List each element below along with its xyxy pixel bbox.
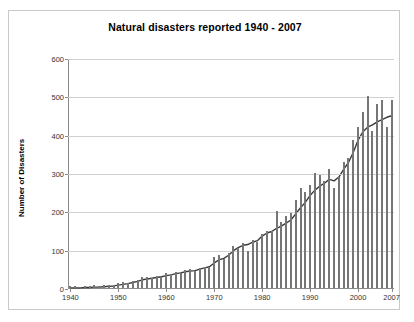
- bar: [160, 277, 162, 289]
- y-tick-mark: [65, 251, 68, 252]
- bar: [266, 231, 268, 289]
- bar: [84, 286, 86, 288]
- y-tick-mark: [65, 289, 68, 290]
- bar: [357, 127, 359, 288]
- bar: [381, 100, 383, 288]
- bar: [290, 213, 292, 288]
- bar: [108, 285, 110, 288]
- x-tick-label: 2007: [383, 293, 400, 302]
- bar: [199, 268, 201, 288]
- bar: [386, 127, 388, 288]
- bar: [338, 177, 340, 288]
- y-tick-mark: [65, 97, 68, 98]
- bar: [362, 112, 364, 288]
- bar: [285, 216, 287, 288]
- gridline: [68, 97, 394, 98]
- gridline: [68, 251, 394, 252]
- bar: [300, 188, 302, 288]
- bar: [228, 253, 230, 288]
- bar: [280, 222, 282, 288]
- x-tick-mark: [392, 289, 393, 292]
- bar: [343, 162, 345, 289]
- y-tick-label: 600: [51, 55, 64, 64]
- bar: [184, 270, 186, 288]
- bar: [122, 282, 124, 288]
- bar: [132, 281, 134, 288]
- bar: [204, 267, 206, 288]
- bar: [194, 271, 196, 288]
- bar: [242, 243, 244, 288]
- bar: [218, 255, 220, 288]
- bar: [156, 276, 158, 288]
- bar: [319, 175, 321, 288]
- x-tick-mark: [166, 289, 167, 292]
- bar: [391, 100, 393, 288]
- bar: [103, 285, 105, 288]
- bar: [127, 283, 129, 288]
- x-tick-label: 1980: [254, 293, 271, 302]
- bar: [93, 285, 95, 288]
- y-tick-label: 200: [51, 208, 64, 217]
- bar: [175, 272, 177, 288]
- chart-title: Natural disasters reported 1940 - 2007: [9, 21, 401, 33]
- x-tick-mark: [262, 289, 263, 292]
- bar: [328, 169, 330, 288]
- bar: [276, 211, 278, 288]
- bar: [252, 240, 254, 288]
- bar: [98, 286, 100, 288]
- bar: [117, 283, 119, 288]
- x-tick-label: 1940: [62, 293, 79, 302]
- bar: [137, 280, 139, 288]
- gridline: [68, 174, 394, 175]
- bar: [347, 158, 349, 288]
- bar: [213, 257, 215, 288]
- x-tick-label: 1960: [158, 293, 175, 302]
- x-tick-label: 1950: [110, 293, 127, 302]
- y-tick-label: 300: [51, 170, 64, 179]
- x-tick-mark: [118, 289, 119, 292]
- y-tick-mark: [65, 212, 68, 213]
- bar: [271, 231, 273, 288]
- bar: [367, 96, 369, 288]
- y-tick-label: 500: [51, 93, 64, 102]
- bar: [74, 286, 76, 288]
- y-axis-label: Number of Disasters: [15, 123, 27, 233]
- bar: [309, 185, 311, 289]
- y-tick-label: 400: [51, 131, 64, 140]
- bar: [237, 248, 239, 288]
- bar: [371, 131, 373, 288]
- bar: [352, 140, 354, 288]
- x-tick-mark: [214, 289, 215, 292]
- bar: [208, 267, 210, 288]
- x-tick-label: 2000: [350, 293, 367, 302]
- gridline: [68, 212, 394, 213]
- bar: [232, 246, 234, 288]
- bar: [314, 173, 316, 288]
- bar: [223, 259, 225, 288]
- bar: [247, 251, 249, 288]
- plot-area: 0100200300400500600194019501960197019801…: [68, 59, 394, 289]
- y-tick-mark: [65, 136, 68, 137]
- bar: [69, 286, 71, 288]
- bar: [89, 286, 91, 288]
- bar: [256, 242, 258, 288]
- bar: [323, 181, 325, 288]
- bar: [146, 277, 148, 288]
- y-tick-mark: [65, 59, 68, 60]
- bar: [189, 269, 191, 288]
- bar: [304, 192, 306, 288]
- gridline: [68, 59, 394, 60]
- gridline: [68, 136, 394, 137]
- bar: [376, 104, 378, 288]
- x-tick-mark: [310, 289, 311, 292]
- x-tick-label: 1970: [206, 293, 223, 302]
- y-tick-mark: [65, 174, 68, 175]
- x-tick-mark: [70, 289, 71, 292]
- chart-frame: Natural disasters reported 1940 - 2007 N…: [8, 10, 400, 310]
- x-tick-label: 1990: [302, 293, 319, 302]
- bar: [180, 273, 182, 288]
- bar: [261, 234, 263, 288]
- y-tick-label: 100: [51, 246, 64, 255]
- bar: [79, 287, 81, 288]
- bar: [165, 273, 167, 288]
